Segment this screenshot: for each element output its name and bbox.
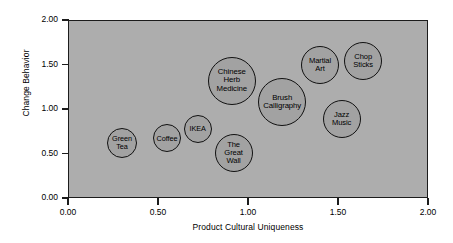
bubble-label: Martial Art bbox=[309, 57, 331, 73]
y-tick-mark bbox=[62, 108, 69, 110]
y-tick-mark bbox=[62, 64, 69, 66]
x-tick-label: 1.00 bbox=[226, 207, 270, 217]
x-tick-label: 2.00 bbox=[406, 207, 450, 217]
bubble-label: Coffee bbox=[157, 135, 178, 143]
bubble-label: Chop Sticks bbox=[353, 53, 373, 69]
y-axis-title: Change Behavior bbox=[21, 13, 31, 153]
bubble-chart: 0.000.501.001.502.000.000.501.001.502.00… bbox=[0, 0, 453, 243]
x-tick-mark bbox=[427, 198, 429, 205]
bubble-label: Brush Calligraphy bbox=[263, 94, 301, 110]
bubble-the-great-wall[interactable]: The Great Wall bbox=[215, 134, 253, 172]
bubble-label: IKEA bbox=[189, 125, 205, 133]
x-tick-mark bbox=[157, 198, 159, 205]
x-tick-mark bbox=[67, 198, 69, 205]
bubble-green-tea[interactable]: Green Tea bbox=[107, 128, 137, 158]
bubble-label: Chinese Herb Medicine bbox=[217, 68, 247, 92]
bubble-label: The Great Wall bbox=[224, 141, 243, 165]
bubble-brush-calligraphy[interactable]: Brush Calligraphy bbox=[258, 78, 306, 126]
x-tick-label: 0.00 bbox=[46, 207, 90, 217]
bubble-ikea[interactable]: IKEA bbox=[184, 115, 212, 143]
bubble-label: Green Tea bbox=[112, 135, 132, 150]
y-tick-mark bbox=[62, 19, 69, 21]
y-tick-mark bbox=[62, 153, 69, 155]
x-tick-label: 0.50 bbox=[136, 207, 180, 217]
x-axis-title: Product Cultural Uniqueness bbox=[68, 222, 428, 232]
bubble-chinese-herb-medicine[interactable]: Chinese Herb Medicine bbox=[208, 57, 256, 105]
bubble-jazz-music[interactable]: Jazz Music bbox=[323, 100, 361, 138]
y-tick-label: 0.00 bbox=[14, 192, 58, 202]
bubble-chop-sticks[interactable]: Chop Sticks bbox=[344, 42, 382, 80]
x-tick-mark bbox=[247, 198, 249, 205]
x-tick-label: 1.50 bbox=[316, 207, 360, 217]
x-tick-mark bbox=[337, 198, 339, 205]
bubble-label: Jazz Music bbox=[332, 111, 351, 127]
